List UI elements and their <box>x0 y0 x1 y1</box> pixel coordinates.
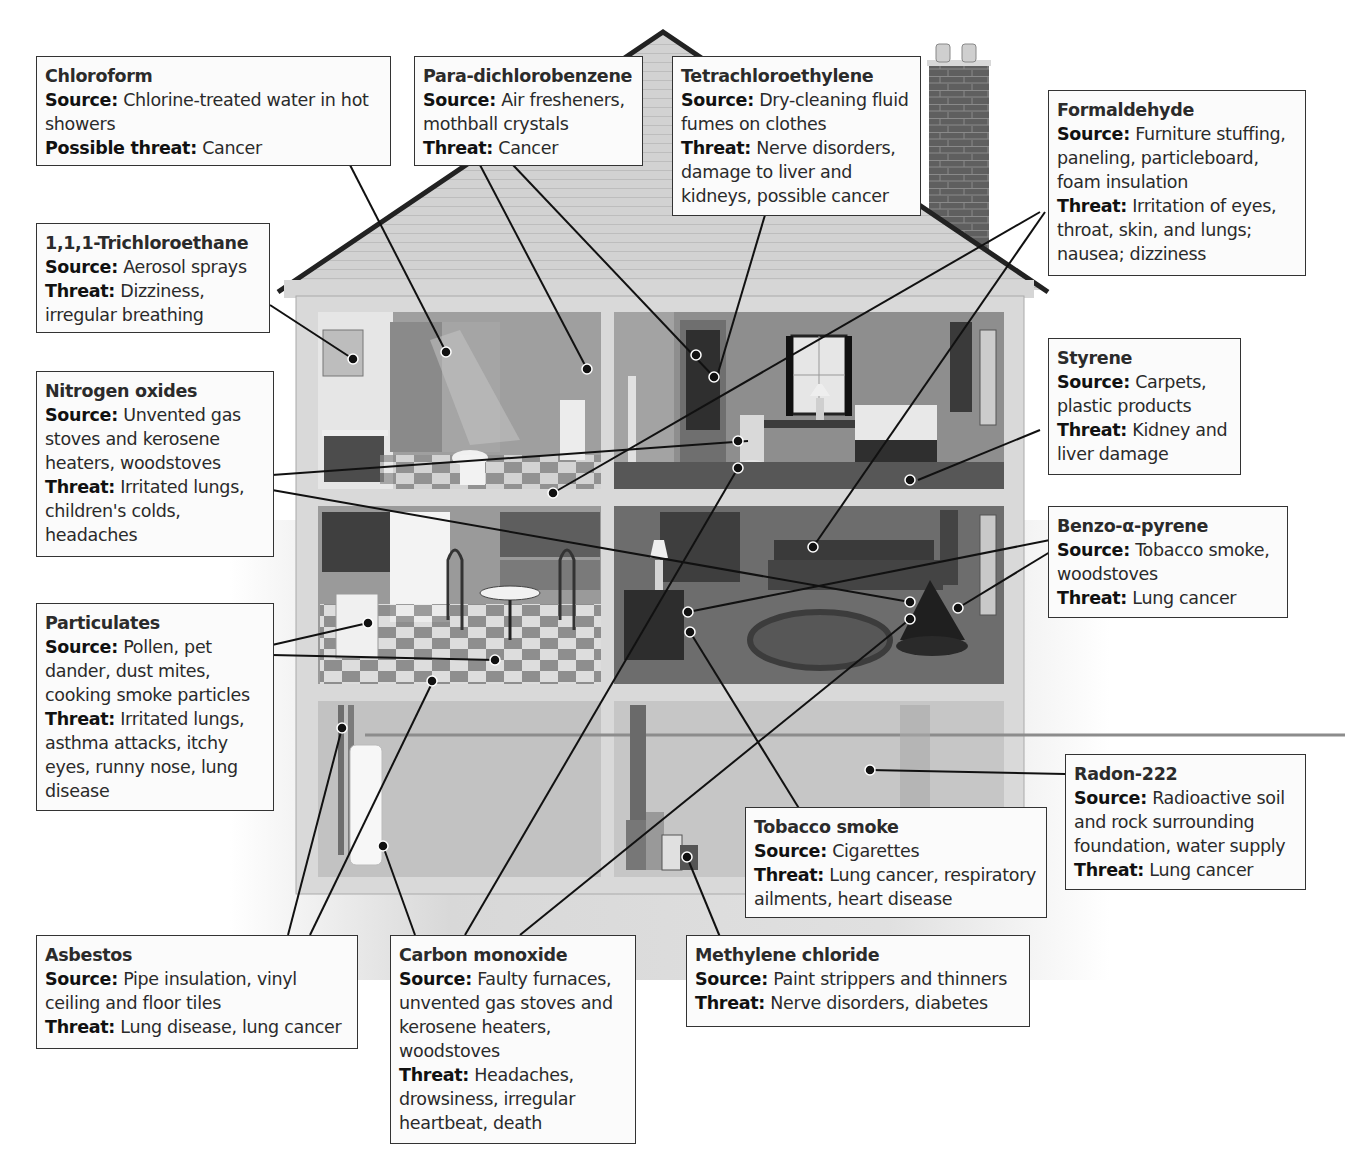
threat-label: Threat: <box>1057 588 1127 608</box>
threat-label: Threat: <box>45 709 115 729</box>
callout-carbon-monoxide: Carbon monoxide Source: Faulty furnaces,… <box>390 935 636 1144</box>
source-text: Aerosol sprays <box>123 257 247 277</box>
threat-label: Threat: <box>399 1065 469 1085</box>
pollutant-name: Tobacco smoke <box>754 815 1038 839</box>
source-label: Source: <box>423 90 496 110</box>
threat-label: Threat: <box>1074 860 1144 880</box>
pollutant-name: Radon-222 <box>1074 762 1297 786</box>
callout-tetrachloroethylene: Tetrachloroethylene Source: Dry-cleaning… <box>672 56 921 216</box>
pollutant-name: Asbestos <box>45 943 349 967</box>
pollutant-name: 1,1,1-Trichloroethane <box>45 231 261 255</box>
threat-text: Nerve disorders, diabetes <box>770 993 988 1013</box>
callout-methylene-chloride: Methylene chloride Source: Paint strippe… <box>686 935 1030 1027</box>
callout-benzo-a-pyrene: Benzo-α-pyrene Source: Tobacco smoke, wo… <box>1048 506 1288 618</box>
source-label: Source: <box>45 257 118 277</box>
pollutant-name: Benzo-α-pyrene <box>1057 514 1279 538</box>
callout-trichloroethane: 1,1,1-Trichloroethane Source: Aerosol sp… <box>36 223 270 333</box>
threat-label: Threat: <box>423 138 493 158</box>
pollutant-name: Carbon monoxide <box>399 943 627 967</box>
threat-label: Threat: <box>754 865 824 885</box>
callout-para-dichlorobenzene: Para-dichlorobenzene Source: Air freshen… <box>414 56 643 166</box>
pollutant-name: Para-dichlorobenzene <box>423 64 634 88</box>
threat-label: Threat: <box>695 993 765 1013</box>
threat-label: Threat: <box>681 138 751 158</box>
source-text: Cigarettes <box>832 841 919 861</box>
callout-particulates: Particulates Source: Pollen, pet dander,… <box>36 603 274 811</box>
threat-label: Threat: <box>45 1017 115 1037</box>
indoor-air-pollution-diagram: Chloroform Source: Chlorine-treated wate… <box>0 0 1345 1175</box>
threat-text: Lung cancer <box>1149 860 1253 880</box>
pollutant-name: Chloroform <box>45 64 382 88</box>
threat-label: Threat: <box>45 281 115 301</box>
callout-formaldehyde: Formaldehyde Source: Furniture stuffing,… <box>1048 90 1306 276</box>
threat-label: Threat: <box>1057 196 1127 216</box>
source-label: Source: <box>695 969 768 989</box>
threat-label: Threat: <box>1057 420 1127 440</box>
pollutant-name: Formaldehyde <box>1057 98 1297 122</box>
callout-chloroform: Chloroform Source: Chlorine-treated wate… <box>36 56 391 166</box>
source-label: Source: <box>1074 788 1147 808</box>
source-label: Source: <box>45 405 118 425</box>
source-label: Source: <box>45 969 118 989</box>
threat-text: Lung cancer <box>1132 588 1236 608</box>
callout-nitrogen-oxides: Nitrogen oxides Source: Unvented gas sto… <box>36 371 274 557</box>
threat-text: Cancer <box>202 138 262 158</box>
source-label: Source: <box>1057 124 1130 144</box>
pollutant-name: Particulates <box>45 611 265 635</box>
threat-label: Possible threat: <box>45 138 197 158</box>
pollutant-name: Nitrogen oxides <box>45 379 265 403</box>
source-label: Source: <box>1057 540 1130 560</box>
pollutant-name: Tetrachloroethylene <box>681 64 912 88</box>
callout-radon-222: Radon-222 Source: Radioactive soil and r… <box>1065 754 1306 890</box>
source-label: Source: <box>754 841 827 861</box>
threat-text: Cancer <box>498 138 558 158</box>
callout-styrene: Styrene Source: Carpets, plastic product… <box>1048 338 1241 475</box>
source-label: Source: <box>681 90 754 110</box>
callout-asbestos: Asbestos Source: Pipe insulation, vinyl … <box>36 935 358 1049</box>
pollutant-name: Methylene chloride <box>695 943 1021 967</box>
pollutant-name: Styrene <box>1057 346 1232 370</box>
source-label: Source: <box>1057 372 1130 392</box>
source-label: Source: <box>399 969 472 989</box>
callout-tobacco-smoke: Tobacco smoke Source: Cigarettes Threat:… <box>745 807 1047 918</box>
source-label: Source: <box>45 637 118 657</box>
source-text: Paint strippers and thinners <box>773 969 1007 989</box>
threat-text: Lung disease, lung cancer <box>120 1017 341 1037</box>
threat-label: Threat: <box>45 477 115 497</box>
source-label: Source: <box>45 90 118 110</box>
